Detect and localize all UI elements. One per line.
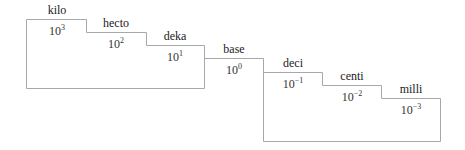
power-centi: 10−2: [322, 91, 382, 103]
power-deci: 10−1: [263, 78, 323, 90]
prefix-label-milli: milli: [381, 83, 441, 95]
power-milli: 10−3: [381, 104, 441, 116]
prefix-label-deci: deci: [263, 57, 323, 69]
prefix-label-deka: deka: [145, 30, 205, 42]
power-base: 100: [204, 64, 264, 76]
power-kilo: 103: [27, 25, 87, 37]
prefix-label-base: base: [204, 43, 264, 55]
prefix-label-hecto: hecto: [86, 17, 146, 29]
power-deka: 101: [145, 51, 205, 63]
prefix-label-kilo: kilo: [27, 4, 87, 16]
power-hecto: 102: [86, 38, 146, 50]
prefix-label-centi: centi: [322, 70, 382, 82]
